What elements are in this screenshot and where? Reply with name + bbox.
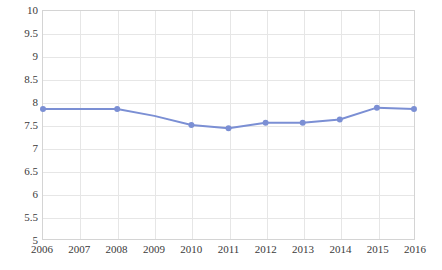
data-point-marker [40, 106, 46, 112]
x-axis-tick-label: 2011 [218, 244, 240, 255]
y-axis-tick-label: 9.5 [2, 28, 38, 39]
y-axis-tick-label: 6 [2, 189, 38, 200]
y-axis-tick-label: 5.5 [2, 212, 38, 223]
x-axis-tick-label: 2013 [292, 244, 314, 255]
data-point-marker [263, 120, 269, 126]
x-axis-tick-label: 2014 [329, 244, 351, 255]
x-axis-tick-label: 2010 [180, 244, 202, 255]
plot-area [42, 10, 415, 240]
data-point-marker [188, 122, 194, 128]
x-axis-tick-label: 2012 [255, 244, 277, 255]
data-point-marker [337, 117, 343, 123]
data-point-marker [411, 106, 417, 112]
x-axis-tick-label: 2007 [68, 244, 90, 255]
x-axis-tick-label: 2016 [404, 244, 426, 255]
x-axis-tick-label: 2009 [143, 244, 165, 255]
y-axis-tick-label: 7 [2, 143, 38, 154]
series-layer [43, 11, 414, 239]
y-axis-tick-label: 6.5 [2, 166, 38, 177]
x-axis-tick-label: 2015 [367, 244, 389, 255]
series-line [43, 108, 414, 129]
data-point-marker [374, 105, 380, 111]
y-axis-tick-label: 8 [2, 97, 38, 108]
line-chart: 55.566.577.588.599.510 20062007200820092… [0, 0, 442, 270]
x-axis: 2006200720082009201020112012201320142015… [42, 244, 415, 264]
x-axis-tick-label: 2006 [31, 244, 53, 255]
y-axis-tick-label: 8.5 [2, 74, 38, 85]
y-axis-tick-label: 9 [2, 51, 38, 62]
x-axis-tick-label: 2008 [106, 244, 128, 255]
y-axis-tick-label: 10 [2, 5, 38, 16]
y-axis: 55.566.577.588.599.510 [0, 0, 38, 270]
data-point-marker [226, 125, 232, 131]
data-point-marker [300, 120, 306, 126]
y-axis-tick-label: 7.5 [2, 120, 38, 131]
data-point-marker [114, 106, 120, 112]
